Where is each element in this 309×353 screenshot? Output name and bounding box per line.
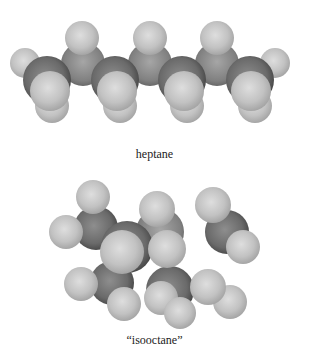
hydrogen-atom [231,71,271,111]
hydrogen-atom [65,21,99,55]
hydrogen-atom [226,230,260,264]
hydrogen-atom [76,180,110,214]
molecule-figure [0,0,309,353]
isooctane-model [49,180,260,329]
hydrogen-atom [139,191,175,227]
heptane-label: heptane [0,147,309,162]
hydrogen-atom [97,71,137,111]
heptane-model [10,21,290,123]
isooctane-label: “isooctane” [0,333,309,348]
hydrogen-atom [64,267,98,301]
hydrogen-atom [100,230,144,274]
hydrogen-atom [133,21,167,55]
hydrogen-atom [164,71,204,111]
hydrogen-atom [148,230,186,268]
hydrogen-atom [195,187,231,223]
hydrogen-atom [190,269,226,305]
hydrogen-atom [107,287,141,321]
hydrogen-atom [164,297,196,329]
hydrogen-atom [49,215,83,249]
hydrogen-atom [30,71,70,111]
hydrogen-atom [200,21,234,55]
